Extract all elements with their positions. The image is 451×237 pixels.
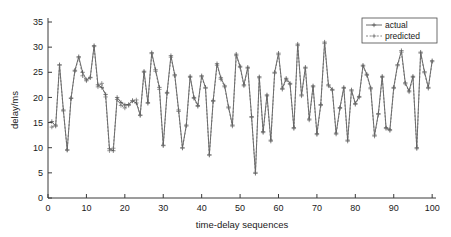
- y-tick-label: 0: [38, 193, 43, 203]
- y-tick-label: 20: [33, 93, 43, 103]
- x-tick-label: 60: [273, 203, 283, 213]
- y-tick-label: 5: [38, 168, 43, 178]
- chart-legend: actualpredicted: [362, 18, 437, 43]
- x-tick-label: 0: [45, 203, 50, 213]
- y-tick-label: 10: [33, 143, 43, 153]
- data-series-group: [50, 40, 435, 176]
- series-line-actual: [52, 42, 432, 173]
- line-chart-svg: 051015202530350102030405060708090100 act…: [0, 0, 451, 237]
- x-tick-label: 80: [350, 203, 360, 213]
- legend-label-actual: actual: [385, 20, 408, 30]
- x-tick-label: 20: [120, 203, 130, 213]
- x-tick-label: 50: [235, 203, 245, 213]
- series-actual: [50, 40, 435, 176]
- x-axis-title: time-delay sequences: [196, 219, 289, 230]
- y-tick-label: 25: [33, 67, 43, 77]
- y-tick-label: 30: [33, 42, 43, 52]
- x-tick-label: 70: [312, 203, 322, 213]
- x-tick-label: 30: [158, 203, 168, 213]
- chart-figure: 051015202530350102030405060708090100 act…: [0, 0, 451, 237]
- y-tick-label: 35: [33, 17, 43, 27]
- y-axis-title: delay/ms: [9, 91, 20, 129]
- x-tick-label: 100: [425, 203, 440, 213]
- x-tick-label: 90: [389, 203, 399, 213]
- y-tick-label: 15: [33, 118, 43, 128]
- series-predicted: [50, 41, 435, 174]
- x-tick-label: 10: [81, 203, 91, 213]
- x-tick-label: 40: [197, 203, 207, 213]
- series-line-predicted: [52, 44, 432, 173]
- legend-label-predicted: predicted: [385, 31, 420, 41]
